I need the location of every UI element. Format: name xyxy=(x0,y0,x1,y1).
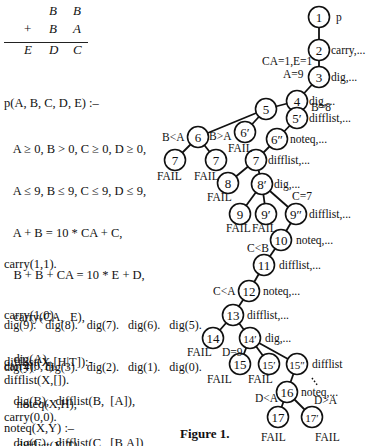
tree-node-n14p: 14′ xyxy=(240,328,261,349)
tree-annotation: difflist,... xyxy=(309,112,351,125)
tree-node-n13: 13 xyxy=(223,305,244,326)
svg-text:6: 6 xyxy=(195,130,202,145)
tree-annotation: difflist,... xyxy=(309,208,351,221)
tree-annotation: FAIL xyxy=(261,431,286,443)
tree-annotation: difflist,... xyxy=(247,309,289,322)
svg-text:12: 12 xyxy=(243,284,256,299)
tree-annotation: C<A xyxy=(213,285,236,297)
tree-node-n5p: 5′ xyxy=(287,108,308,129)
svg-text:7: 7 xyxy=(253,153,260,168)
tree-annotation: FAIL xyxy=(248,373,273,385)
tree-node-n5: 5 xyxy=(256,99,277,120)
tree-annotation: FAIL xyxy=(207,373,232,385)
tree-node-n6p: 6′ xyxy=(235,122,256,143)
svg-text:9′: 9′ xyxy=(261,207,271,222)
tree-annotation: FAIL xyxy=(315,431,340,443)
tree-annotation: dig,... xyxy=(331,71,357,84)
svg-text:4: 4 xyxy=(294,94,301,109)
tree-annotation: D<A xyxy=(255,392,279,404)
tree-annotation: CA=1,E=1 xyxy=(262,55,313,68)
svg-text:6″: 6″ xyxy=(271,132,283,147)
tree-annotation: p xyxy=(336,11,342,24)
svg-text:9: 9 xyxy=(237,207,244,222)
tree-annotation: FAIL xyxy=(194,170,219,182)
tree-node-n1: 1 xyxy=(309,7,330,28)
svg-text:16: 16 xyxy=(281,385,295,400)
svg-text:5: 5 xyxy=(263,102,270,117)
tree-node-n7b: 7 xyxy=(206,150,227,171)
svg-text:15′: 15′ xyxy=(262,359,275,371)
tree-annotation: FAIL xyxy=(226,222,251,234)
tree-annotation: FAIL xyxy=(157,170,182,182)
tree-annotation: FAIL xyxy=(187,346,212,358)
dotted-edge xyxy=(312,378,318,386)
svg-text:10: 10 xyxy=(275,233,288,248)
tree-node-n16: 16 xyxy=(277,382,298,403)
svg-text:7: 7 xyxy=(213,153,220,168)
svg-text:7: 7 xyxy=(172,153,179,168)
tree-annotation: FAIL xyxy=(252,222,277,234)
tree-node-n6pp: 6″ xyxy=(267,129,288,150)
svg-text:17: 17 xyxy=(272,410,286,425)
tree-annotation: noteq,... xyxy=(263,285,300,298)
tree-annotation: carry,... xyxy=(331,44,365,57)
tree-node-n9pp: 9″ xyxy=(286,204,307,225)
svg-text:13: 13 xyxy=(227,308,240,323)
tree-annotation: dig,... xyxy=(265,332,291,345)
tree-annotation: noteq,... xyxy=(290,133,327,146)
svg-text:11: 11 xyxy=(258,258,271,273)
tree-annotation: B<A xyxy=(162,131,185,143)
svg-text:1: 1 xyxy=(316,10,323,25)
tree-node-n15pp: 15″ xyxy=(287,354,308,375)
tree-node-n3: 3 xyxy=(309,67,330,88)
tree-node-n7a: 7 xyxy=(165,150,186,171)
tree-annotation: FAIL xyxy=(207,191,232,203)
search-tree: 123455′66′6″77788′99′9″101112131414′1515… xyxy=(0,0,370,446)
tree-node-n15p: 15′ xyxy=(259,354,280,375)
svg-text:5′: 5′ xyxy=(292,111,302,126)
tree-annotation: B>A xyxy=(209,130,232,142)
tree-annotation: D>A xyxy=(314,394,338,406)
svg-text:6′: 6′ xyxy=(240,125,250,140)
tree-node-n17: 17 xyxy=(268,407,289,428)
svg-text:3: 3 xyxy=(316,70,323,85)
tree-annotation: difflist,... xyxy=(268,154,310,167)
tree-annotation: A=9 xyxy=(283,68,304,80)
svg-text:14′: 14′ xyxy=(243,333,256,345)
svg-text:8: 8 xyxy=(225,176,232,191)
svg-text:9″: 9″ xyxy=(290,207,302,222)
tree-annotation: FAIL xyxy=(228,142,253,154)
svg-text:8′: 8′ xyxy=(257,177,267,192)
svg-text:15″: 15″ xyxy=(289,359,305,371)
tree-node-n6: 6 xyxy=(188,127,209,148)
tree-node-n8p: 8′ xyxy=(252,174,273,195)
tree-node-n11: 11 xyxy=(254,255,275,276)
tree-annotation: D=9 xyxy=(222,346,243,358)
svg-text:15: 15 xyxy=(234,357,247,372)
tree-node-n17p: 17′ xyxy=(302,407,323,428)
tree-annotation: difflist xyxy=(312,358,343,370)
tree-annotation: C<B xyxy=(247,242,269,254)
svg-text:17′: 17′ xyxy=(305,412,318,424)
svg-text:2: 2 xyxy=(316,43,323,58)
tree-annotation: C=7 xyxy=(292,190,312,202)
svg-text:14: 14 xyxy=(207,331,221,346)
tree-annotation: noteq,... xyxy=(296,234,333,247)
tree-node-n12: 12 xyxy=(239,281,260,302)
tree-annotation: difflist,... xyxy=(279,259,321,272)
